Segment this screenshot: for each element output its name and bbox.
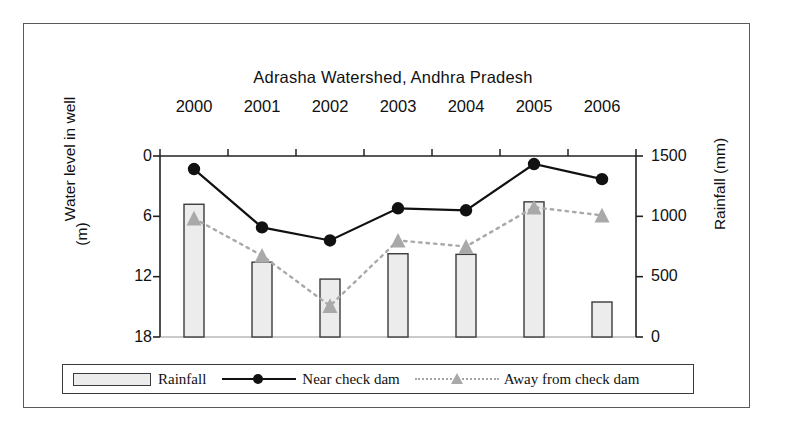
chart-legend: Rainfall Near check dam Away from check …: [62, 364, 694, 394]
circle-marker: [460, 204, 472, 216]
circle-marker: [392, 202, 404, 214]
circle-marker: [528, 158, 540, 170]
dotted-line-triangle-icon: [415, 372, 499, 386]
bar-rainfall: [388, 254, 408, 337]
bar-rainfall: [592, 302, 612, 337]
figure-container: Adrasha Watershed, Andhra Pradesh 2000 2…: [0, 0, 786, 442]
legend-item-near-check-dam: Near check dam: [216, 371, 399, 388]
circle-marker: [256, 221, 268, 233]
legend-label: Away from check dam: [504, 371, 640, 388]
bar-rainfall: [456, 254, 476, 337]
top-axis-ticks: [160, 149, 636, 156]
legend-item-rainfall: Rainfall: [73, 371, 206, 388]
rainfall-bars: [184, 202, 612, 337]
triangle-marker: [459, 239, 474, 254]
circle-marker: [596, 173, 608, 185]
bar-rainfall: [524, 202, 544, 337]
legend-label: Near check dam: [302, 371, 399, 388]
solid-line-circle-icon: [222, 372, 296, 386]
bar-rainfall: [252, 262, 272, 337]
page-caption-fragment: [28, 424, 328, 440]
legend-item-away-from-check-dam: Away from check dam: [410, 371, 640, 388]
bar-swatch-icon: [73, 373, 151, 386]
left-axis-ticks: [153, 156, 160, 337]
circle-marker: [324, 234, 336, 246]
right-axis-ticks: [636, 156, 643, 337]
circle-marker: [188, 163, 200, 175]
legend-label: Rainfall: [158, 371, 206, 388]
triangle-marker: [255, 248, 270, 263]
